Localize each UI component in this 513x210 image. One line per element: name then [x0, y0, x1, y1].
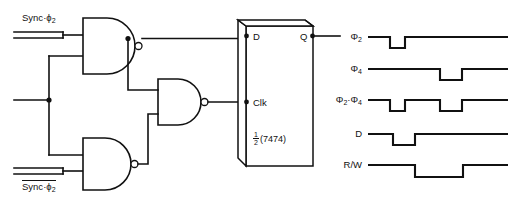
waveform-phi2-phi4-bar — [368, 100, 508, 111]
waveform-label-phi4: Φ4 — [330, 64, 362, 74]
waveform-label-phi2-sym: Φ — [351, 31, 359, 42]
input-label-sync-phi2: Sync·ϕ2 — [22, 13, 56, 23]
bottom-nand-bubble — [131, 161, 138, 168]
circuit-timing-figure: Sync·ϕ2 Sync·ϕ2 D Q Clk 1 2 (7474) Φ2 Φ4… — [0, 0, 513, 210]
input-label-sync-phi2-text: Sync — [22, 12, 43, 23]
chip-part-fraction: 1 2 — [253, 131, 259, 147]
input-label-sync-phi2-bar-idx: 2 — [52, 186, 56, 193]
waveform-label-d: D — [330, 129, 362, 139]
waveform-d — [368, 134, 508, 145]
waveform-label-phi4-sym: Φ — [351, 63, 359, 74]
pin-dot-q — [310, 34, 315, 39]
waveform-label-phi2: Φ2 — [330, 32, 362, 42]
bottom-nand-output-net — [138, 114, 158, 164]
waveform-phi4 — [368, 69, 508, 80]
chip-pin-label-d: D — [253, 31, 260, 42]
chip-part-denominator: 2 — [253, 139, 259, 146]
top-nand-gate — [83, 18, 142, 74]
waveform-label-d-sym: D — [355, 128, 362, 139]
input-label-sync-phi2-bar: Sync·ϕ2 — [22, 180, 56, 191]
input-label-sync-phi2-sym: ϕ — [46, 12, 51, 23]
waveform-label-phi2-phi4-sym2: Φ — [351, 94, 359, 105]
middle-nand-gate — [158, 79, 208, 125]
chip-pin-label-clk: Clk — [253, 97, 267, 108]
bottom-nand-gate — [83, 138, 138, 190]
chip-pin-label-q: Q — [300, 31, 307, 42]
waveform-label-phi2-phi4-idx1: 2 — [343, 99, 347, 106]
pin-dot-d — [244, 34, 249, 39]
chip-part-number: 1 2 (7474) — [253, 131, 286, 147]
waveform-label-rw: R/W — [322, 160, 362, 170]
waveform-label-phi2-phi4-bar: Φ2·Φ4 — [314, 95, 362, 105]
input-label-sync-phi2-idx: 2 — [52, 17, 56, 24]
input-label-sync-phi2-bar-text: Sync — [22, 181, 43, 192]
chip-part-numerator: 1 — [253, 131, 259, 139]
input-sync-phi2-bar-wire — [14, 168, 83, 174]
waveform-phi2 — [368, 37, 508, 48]
input-label-sync-phi2-bar-sym: ϕ — [46, 181, 51, 192]
waveform-label-phi2-idx: 2 — [358, 36, 362, 43]
middle-nand-bubble — [201, 99, 208, 106]
input-label-sync-phi2-bar-overline: Sync·ϕ2 — [22, 180, 56, 191]
waveform-label-phi2-phi4-idx2: 4 — [358, 99, 362, 106]
waveform-label-phi4-idx: 4 — [358, 68, 362, 75]
chip-part-name: (7474) — [260, 134, 286, 144]
input-sync-phi2-wire — [14, 32, 83, 38]
top-nand-bubble — [135, 43, 142, 50]
pin-dot-clk — [244, 100, 249, 105]
waveform-rw — [368, 165, 508, 177]
waveform-label-phi2-phi4-overline: Φ2·Φ4 — [336, 94, 362, 105]
middle-input-wire — [14, 56, 83, 155]
waveform-label-rw-sym: R/W — [344, 159, 362, 170]
